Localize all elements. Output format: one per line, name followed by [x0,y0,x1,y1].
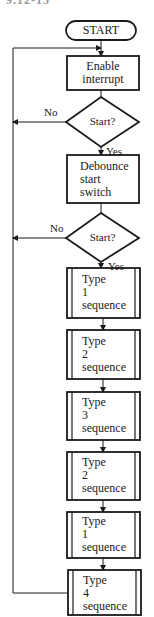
decision-2-yes-label: Yes [108,260,124,272]
decision-1-label: Start? [66,115,139,128]
decision-2-no-label: No [50,222,63,234]
debounce-label: Debounce start switch [80,160,129,199]
type2b-line-3: sequence [82,482,126,495]
enable-interrupt-line-2: interrupt [67,73,139,86]
type2-sequence-b-label: Type 2 sequence [82,456,126,495]
type2b-line-1: Type [82,456,126,469]
type4-line-1: Type [83,574,127,587]
type4-sequence-label: Type 4 sequence [83,574,127,613]
type1b-line-1: Type [82,515,126,528]
type1a-line-3: sequence [82,299,126,312]
type3-line-1: Type [82,396,126,409]
type1a-line-1: Type [82,273,126,286]
decision-2-label: Start? [66,231,139,244]
type1b-line-3: sequence [82,541,126,554]
type3-line-3: sequence [82,422,126,435]
type1-sequence-b-label: Type 1 sequence [82,515,126,554]
type2-sequence-a-label: Type 2 sequence [82,335,126,374]
enable-interrupt-label: Enable interrupt [67,60,139,86]
decision-1-no-label: No [44,106,57,118]
type1-sequence-a-label: Type 1 sequence [82,273,126,312]
type3-sequence-label: Type 3 sequence [82,396,126,435]
debounce-line-3: switch [80,186,129,199]
start-label: START [66,24,136,37]
type2a-line-3: sequence [82,361,126,374]
decision-1-yes-label: Yes [106,145,122,157]
type2a-line-1: Type [82,335,126,348]
flowchart-canvas [0,0,154,617]
type4-line-3: sequence [83,600,127,613]
